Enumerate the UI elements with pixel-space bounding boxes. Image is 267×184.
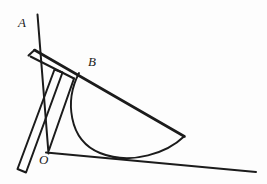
ray-oa — [38, 15, 49, 154]
protractor-arc-edge — [71, 73, 184, 158]
protractor-straight-edge — [35, 50, 185, 137]
geometry-figure: A B O — [0, 0, 267, 184]
protractor-strip-cap-top — [29, 50, 35, 56]
protractor-notch-edge — [49, 79, 74, 151]
label-b: B — [88, 54, 96, 69]
label-a: A — [17, 15, 26, 30]
label-o: O — [39, 152, 49, 167]
figure-canvas: A B O — [0, 0, 267, 184]
